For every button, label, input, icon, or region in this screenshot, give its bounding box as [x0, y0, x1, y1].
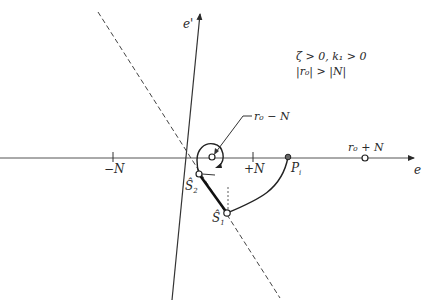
r0-plus-n-point: [362, 155, 368, 161]
condition-line-1: ζ > 0, k₁ > 0: [296, 50, 366, 63]
p-i-label: Pi: [290, 161, 301, 177]
s2-tangent-tick: [202, 174, 215, 175]
p-i-point: [285, 154, 291, 160]
s2-point: [196, 171, 202, 177]
e-prime-axis-label: e': [183, 17, 193, 31]
diagram-canvas: e e' −N +N ζ > 0, k₁ > 0 |r₀| > |N| r₀ −…: [0, 0, 433, 308]
plus-n-label: +N: [244, 162, 265, 176]
r0-minus-n-leader: [216, 116, 252, 152]
s2-label: Ŝ2: [185, 177, 198, 195]
e-prime-axis: [172, 14, 200, 300]
minus-n-label: −N: [104, 162, 125, 176]
r0-plus-n-label: r₀ + N: [348, 141, 384, 154]
condition-line-2: |r₀| > |N|: [296, 65, 346, 79]
r0-minus-n-label: r₀ − N: [254, 110, 290, 123]
r0-minus-n-point: [209, 154, 215, 160]
s1-label: Ŝ1: [212, 209, 225, 227]
e-axis-label: e: [414, 163, 421, 177]
s2-s1-segment: [199, 174, 227, 213]
spiral-arrowhead-icon: [215, 163, 222, 168]
s1-point: [224, 210, 230, 216]
